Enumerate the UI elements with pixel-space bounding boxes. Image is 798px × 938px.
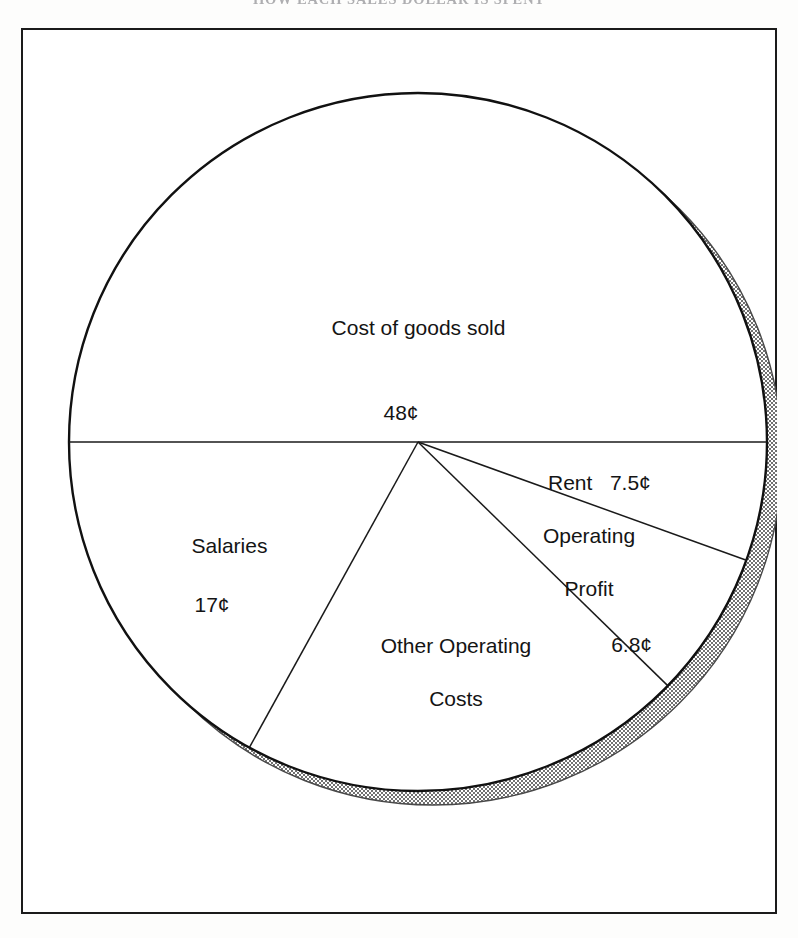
page-background: HOW EACH SALES DOLLAR IS SPENT xyxy=(0,0,798,938)
pie-chart: Cost of goods sold 48¢ Salaries 17¢ Rent… xyxy=(21,28,777,914)
page-title: HOW EACH SALES DOLLAR IS SPENT xyxy=(0,0,798,8)
pie-chart-svg xyxy=(21,28,777,914)
